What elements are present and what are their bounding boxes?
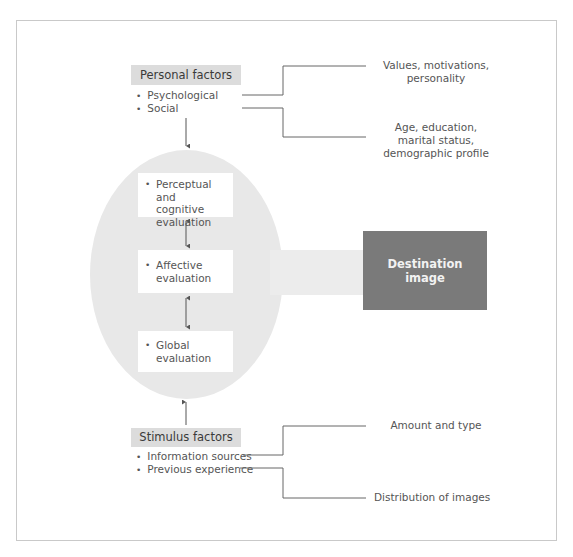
connector-lines [0,0,573,557]
